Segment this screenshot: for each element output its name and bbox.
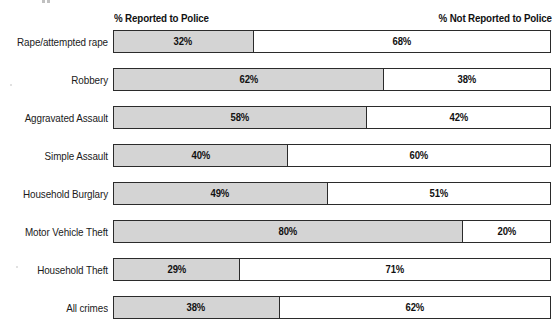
- stacked-bar: 62%38%: [113, 68, 551, 91]
- bar-segment-reported: 58%: [114, 107, 367, 128]
- bar-segment-not-reported: 42%: [367, 107, 550, 128]
- chart-row: Household Burglary49%51%: [0, 182, 558, 220]
- bar-value-reported: 49%: [211, 188, 230, 199]
- bar-value-reported: 58%: [231, 112, 250, 123]
- bar-value-reported: 40%: [191, 150, 210, 161]
- bar-value-not-reported: 68%: [392, 36, 411, 47]
- stacked-bar: 29%71%: [113, 258, 551, 281]
- row-label: Simple Assault: [6, 148, 108, 164]
- bar-segment-not-reported: 38%: [384, 69, 550, 90]
- bar-value-reported: 80%: [279, 226, 298, 237]
- chart-row: Simple Assault40%60%: [0, 144, 558, 182]
- bar-segment-reported: 62%: [114, 69, 384, 90]
- header-reported-to-police: % Reported to Police: [114, 12, 209, 24]
- bar-segment-not-reported: 20%: [463, 221, 550, 242]
- scan-artifact: [42, 0, 52, 4]
- column-headers: % Reported to Police % Not Reported to P…: [0, 12, 558, 28]
- stacked-bar: 49%51%: [113, 182, 551, 205]
- row-label: All crimes: [6, 300, 108, 316]
- bar-segment-reported: 29%: [114, 259, 240, 280]
- bar-value-reported: 38%: [187, 302, 206, 313]
- bar-value-not-reported: 42%: [449, 112, 468, 123]
- chart-row: Household Theft29%71%: [0, 258, 558, 296]
- bar-segment-not-reported: 62%: [280, 297, 550, 318]
- bar-segment-reported: 38%: [114, 297, 280, 318]
- bar-segment-reported: 80%: [114, 221, 463, 242]
- bar-segment-not-reported: 71%: [240, 259, 550, 280]
- row-label: Motor Vehicle Theft: [6, 224, 108, 240]
- bar-segment-reported: 49%: [114, 183, 328, 204]
- bar-value-not-reported: 60%: [410, 150, 429, 161]
- chart-row: Robbery62%38%: [0, 68, 558, 106]
- stacked-bar: 58%42%: [113, 106, 551, 129]
- row-label: Aggravated Assault: [6, 110, 108, 126]
- stacked-bar-chart: % Reported to Police % Not Reported to P…: [0, 0, 558, 325]
- chart-row: Aggravated Assault58%42%: [0, 106, 558, 144]
- row-label: Robbery: [6, 72, 108, 88]
- bar-value-reported: 32%: [174, 36, 193, 47]
- row-label: Rape/attempted rape: [6, 34, 108, 50]
- bar-segment-reported: 32%: [114, 31, 254, 52]
- bar-value-not-reported: 51%: [429, 188, 448, 199]
- bar-value-reported: 29%: [167, 264, 186, 275]
- bar-value-not-reported: 62%: [405, 302, 424, 313]
- bar-value-reported: 62%: [239, 74, 258, 85]
- bar-segment-reported: 40%: [114, 145, 288, 166]
- row-label: Household Theft: [6, 262, 108, 278]
- stacked-bar: 38%62%: [113, 296, 551, 319]
- chart-row: Motor Vehicle Theft80%20%: [0, 220, 558, 258]
- stacked-bar: 40%60%: [113, 144, 551, 167]
- bar-segment-not-reported: 60%: [288, 145, 550, 166]
- chart-row: Rape/attempted rape32%68%: [0, 30, 558, 68]
- bar-value-not-reported: 38%: [458, 74, 477, 85]
- chart-row: All crimes38%62%: [0, 296, 558, 325]
- bar-segment-not-reported: 68%: [254, 31, 550, 52]
- bar-segment-not-reported: 51%: [328, 183, 550, 204]
- chart-rows: Rape/attempted rape32%68%Robbery62%38%Ag…: [0, 30, 558, 325]
- header-not-reported-to-police: % Not Reported to Police: [439, 12, 552, 24]
- stacked-bar: 80%20%: [113, 220, 551, 243]
- bar-value-not-reported: 71%: [386, 264, 405, 275]
- bar-value-not-reported: 20%: [497, 226, 516, 237]
- stacked-bar: 32%68%: [113, 30, 551, 53]
- row-label: Household Burglary: [6, 186, 108, 202]
